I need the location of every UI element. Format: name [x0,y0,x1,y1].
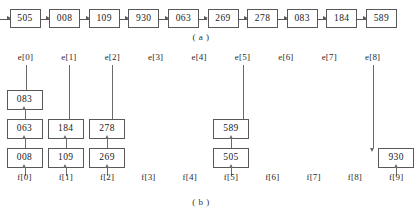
list-connector-arrow [120,19,129,20]
list-connector-arrow [239,19,248,20]
list-connector-arrow [0,19,10,20]
f-pointer-label: f[1] [46,172,86,182]
f-pointer-label: f[8] [335,172,375,182]
e-pointer-stub [112,65,113,83]
list-cell: 184 [326,9,357,28]
list-cell: 269 [208,9,239,28]
e-pointer-label: e[0] [6,52,46,62]
list-connector-arrow [41,19,50,20]
list-connector-arrow [318,19,327,20]
e-pointer-label: e[5] [223,52,263,62]
e-pointer-label: e[2] [92,52,132,62]
list-cell: 008 [49,9,80,28]
bucket-link-arrow [107,139,108,148]
list-connector-arrow [357,19,366,20]
list-cell: 505 [10,9,41,28]
f-pointer-label: f[2] [87,172,127,182]
e-pointer-stub [69,65,70,83]
f-pointer-label: f[5] [211,172,251,182]
caption-a: ( a ) [171,32,231,42]
list-cell: 278 [247,9,278,28]
e-pointer-arrow [243,65,244,119]
list-cell: 930 [128,9,159,28]
e-pointer-label: e[3] [136,52,176,62]
e-pointer-label: e[1] [49,52,89,62]
e-pointer-label: e[8] [353,52,393,62]
list-cell: 083 [287,9,318,28]
f-pointer-label: f[6] [252,172,292,182]
e-pointer-label: e[6] [266,52,306,62]
list-connector-arrow [199,19,208,20]
list-cell: 109 [89,9,120,28]
e-pointer-label: e[4] [179,52,219,62]
list-connector-arrow [80,19,89,20]
bucket-link-arrow [66,139,67,148]
list-connector-arrow [278,19,287,20]
bucket-link-arrow [231,139,232,148]
e-pointer-arrow [26,65,27,90]
list-cell: 589 [366,9,397,28]
f-pointer-label: f[0] [5,172,45,182]
f-pointer-label: f[3] [128,172,168,182]
f-pointer-label: f[9] [376,172,416,182]
f-pointer-label: f[7] [294,172,334,182]
e-pointer-arrow [373,65,374,148]
e-pointer-label: e[7] [309,52,349,62]
caption-b: ( b ) [171,197,231,207]
bucket-link-arrow [25,110,26,119]
bucket-link-arrow [25,139,26,148]
list-connector-arrow [159,19,168,20]
list-cell: 063 [168,9,199,28]
f-pointer-label: f[4] [170,172,210,182]
